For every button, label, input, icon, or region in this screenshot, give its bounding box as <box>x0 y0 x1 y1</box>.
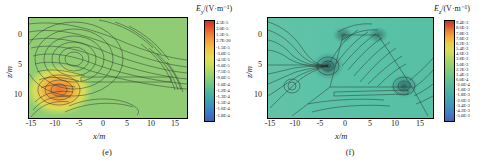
ytick-f-0: 0 <box>246 30 262 39</box>
xtick-e-2: -5 <box>67 119 91 128</box>
xtick-e-3: 0 <box>91 119 115 128</box>
colorbar-title-e: Ey/(V·m⁻¹) <box>196 4 232 15</box>
xtick-f-6: 15 <box>408 119 432 128</box>
xtick-e-1: -10 <box>43 119 67 128</box>
xtick-e-4: 5 <box>115 119 139 128</box>
xtick-e-6: 15 <box>163 119 187 128</box>
colorbar-tick-label: -1.5E-5 <box>216 45 231 51</box>
contour-lines-e <box>29 18 187 118</box>
xtick-f-0: -15 <box>258 119 282 128</box>
xtick-f-3: 0 <box>333 119 357 128</box>
plot-area-e <box>28 17 188 119</box>
colorbar-gradient-e <box>204 20 215 122</box>
colorbar-title-f: Ez/(V·m⁻¹) <box>434 4 470 15</box>
colorbar-tick-label: -9.0E-5 <box>216 76 231 82</box>
xtick-f-5: 10 <box>383 119 407 128</box>
xaxis-label-e: x/m <box>93 131 105 141</box>
contour-lines-f <box>268 18 433 118</box>
panel-caption-e: (e) <box>77 147 137 157</box>
panel-caption-f: (f) <box>320 147 380 157</box>
figure-container: 0 5 10 z/m -15 -10 -5 0 5 10 15 x/m (e) … <box>0 0 483 164</box>
colorbar-tick-label: -1.8E-4 <box>216 113 231 119</box>
ytick-e-2: 10 <box>6 90 22 99</box>
xtick-f-4: 5 <box>358 119 382 128</box>
panel-f: 0 5 10 z/m -15 -10 -5 0 5 10 15 x/m (f) … <box>242 0 483 164</box>
xtick-f-1: -10 <box>283 119 307 128</box>
yaxis-label-f: z/m <box>244 66 254 78</box>
conductor-bar-e <box>81 77 171 82</box>
plot-area-f <box>267 17 434 119</box>
conductor-trapezoid-f <box>330 35 412 87</box>
xtick-e-5: 10 <box>139 119 163 128</box>
colorbar-tick-label: -1.6E-4 <box>216 107 231 113</box>
colorbar-unit-f: /(V·m⁻¹) <box>441 4 470 13</box>
xaxis-label-f: x/m <box>335 131 347 141</box>
xtick-e-0: -15 <box>19 119 43 128</box>
yaxis-label-e: z/m <box>4 66 14 78</box>
colorbar-tick-label: -5.0E-3 <box>456 114 470 119</box>
colorbar-unit-e: /(V·m⁻¹) <box>204 4 233 13</box>
ytick-e-0: 0 <box>6 30 22 39</box>
xtick-f-2: -5 <box>308 119 332 128</box>
colorbar-ticks-f: 9.4E-38.6E-37.8E-37.0E-36.2E-35.4E-34.6E… <box>456 21 470 119</box>
ytick-f-2: 10 <box>246 90 262 99</box>
panel-e: 0 5 10 z/m -15 -10 -5 0 5 10 15 x/m (e) … <box>0 0 242 164</box>
colorbar-tick-label: 2.7E-20 <box>216 39 231 45</box>
colorbar-gradient-f <box>444 20 455 122</box>
conductor-right-leg-f <box>412 87 428 116</box>
colorbar-ticks-e: 4.5E-53.0E-51.5E-52.7E-20-1.5E-5-3.0E-5-… <box>216 20 231 119</box>
